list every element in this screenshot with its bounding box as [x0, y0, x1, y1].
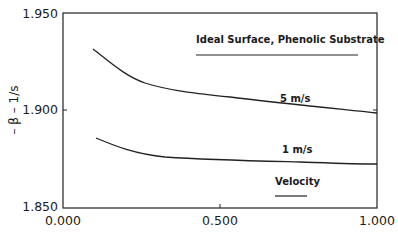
y-axis-label: – β – 1/s: [7, 85, 21, 134]
chart: 1.950 1.900 1.850 0.000 0.500 1.000 – β …: [0, 0, 398, 235]
series-5ms-line: [93, 49, 377, 113]
series-5ms-label: 5 m/s: [280, 93, 311, 104]
chart-title: Ideal Surface, Phenolic Substrate: [196, 34, 385, 45]
x-tick-label-0000: 0.000: [45, 213, 81, 228]
y-tick-label-1850: 1.850: [22, 199, 58, 214]
legend-title: Velocity: [275, 176, 320, 187]
y-tick-label-1950: 1.950: [22, 6, 58, 21]
y-tick-label-1900: 1.900: [22, 102, 58, 117]
x-tick-label-0500: 0.500: [202, 213, 238, 228]
x-tick-label-1000: 1.000: [359, 213, 395, 228]
series-1ms-line: [96, 138, 377, 164]
series-1ms-label: 1 m/s: [282, 144, 313, 155]
